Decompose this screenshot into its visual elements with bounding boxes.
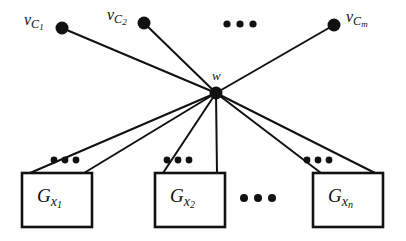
clause-node-label-1: vC1 (24, 12, 44, 32)
variable-box-label-1: Gx1 (37, 186, 62, 210)
box-row-ellipsis-dot-3 (268, 194, 276, 202)
clause-node-1 (56, 22, 69, 35)
box-row-ellipsis-dot-2 (254, 194, 262, 202)
edge-hub-to-clause-3 (216, 25, 334, 93)
box-2-edge-ellipsis-dot-3 (186, 157, 193, 164)
edge-hub-to-box-3-right (216, 93, 375, 173)
box-label-index-2: 2 (190, 199, 195, 210)
clause-row-ellipsis-dot-2 (236, 20, 243, 27)
edges-layer (30, 23, 375, 173)
box-label-index-1: 1 (57, 199, 62, 210)
box-3-edge-ellipsis-dot-1 (304, 157, 311, 164)
clause-label-index-m: m (361, 19, 368, 29)
edge-hub-to-box-1-right (84, 93, 216, 173)
clause-node-2 (138, 17, 151, 30)
box-2-edge-ellipsis-dot-1 (164, 157, 171, 164)
box-3-edge-ellipsis-dot-2 (315, 157, 322, 164)
hub-node-label: w (212, 67, 221, 83)
box-1-edge-ellipsis-dot-2 (62, 157, 69, 164)
edge-hub-to-clause-1 (62, 28, 216, 93)
clause-label-sub-1: C (31, 17, 39, 31)
nodes-layer (56, 17, 341, 100)
box-3-edge-ellipsis-dot-3 (326, 157, 333, 164)
box-label-base-1: G (37, 185, 51, 206)
box-2-edge-ellipsis-dot-2 (175, 157, 182, 164)
box-1-edge-ellipsis-dot-3 (73, 157, 80, 164)
edge-hub-to-box-2-right (216, 93, 217, 173)
clause-node-label-2: vC2 (107, 7, 127, 27)
clause-row-ellipsis-dot-3 (249, 20, 256, 27)
clause-node-3 (328, 19, 341, 32)
variable-box-label-n: Gxn (328, 186, 353, 210)
variable-box-label-2: Gx2 (170, 186, 195, 210)
clause-label-sub-m: C (353, 14, 361, 28)
box-label-base-2: G (170, 185, 184, 206)
box-label-base-n: G (328, 185, 342, 206)
clause-label-index-2: 2 (122, 17, 127, 27)
box-1-edge-ellipsis-dot-1 (51, 157, 58, 164)
clause-row-ellipsis-dot-1 (223, 20, 230, 27)
hub-label-text: w (212, 68, 221, 83)
graph-construction-figure: vC1 vC2 vCm w Gx1 Gx2 Gxn (0, 0, 406, 241)
box-row-ellipsis-dot-1 (240, 194, 248, 202)
box-label-index-n: n (348, 199, 353, 210)
clause-label-sub-2: C (114, 12, 122, 26)
clause-label-index-1: 1 (39, 22, 44, 32)
clause-node-label-m: vCm (346, 9, 368, 29)
edge-hub-to-clause-2 (144, 23, 216, 93)
hub-node-w (210, 87, 223, 100)
